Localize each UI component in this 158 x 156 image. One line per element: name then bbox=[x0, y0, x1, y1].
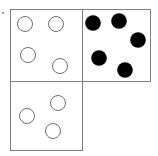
open-counter-circle[interactable] bbox=[18, 17, 33, 32]
bottom-left-box[interactable] bbox=[11, 82, 83, 151]
filled-counter-circle[interactable] bbox=[111, 13, 127, 29]
counter-diagram bbox=[0, 0, 158, 156]
open-counter-circle[interactable] bbox=[51, 96, 66, 111]
filled-counter-circle[interactable] bbox=[130, 32, 146, 48]
open-counter-circle[interactable] bbox=[20, 109, 35, 124]
top-right-box[interactable] bbox=[83, 10, 151, 82]
filled-counter-circle[interactable] bbox=[85, 15, 101, 31]
open-counter-circle[interactable] bbox=[53, 59, 68, 74]
filled-counter-circle[interactable] bbox=[91, 50, 107, 66]
top-left-box[interactable] bbox=[11, 10, 83, 82]
open-counter-circle[interactable] bbox=[46, 124, 61, 139]
diagram-canvas: Two boxes side by side on the top row an… bbox=[0, 0, 158, 156]
edge-speck-artifact bbox=[2, 12, 4, 14]
filled-counter-circle[interactable] bbox=[117, 62, 133, 78]
open-counter-circle[interactable] bbox=[21, 48, 36, 63]
open-counter-circle[interactable] bbox=[49, 17, 64, 32]
